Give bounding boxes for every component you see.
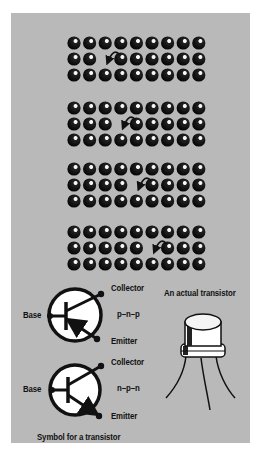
actual-transistor-caption: An actual transistor	[164, 288, 236, 298]
pnp-collector-label: Collector	[111, 283, 144, 293]
npn-type-label: n–p–n	[117, 383, 140, 393]
npn-collector-label: Collector	[111, 357, 144, 367]
pnp-emitter-label: Emitter	[111, 336, 137, 346]
npn-emitter-label: Emitter	[111, 411, 137, 421]
pnp-type-label: p–n–p	[117, 309, 140, 319]
actual-transistor-illustration	[0, 0, 254, 465]
symbol-caption: Symbol for a transistor	[37, 432, 120, 442]
pnp-base-label: Base	[23, 310, 41, 320]
npn-base-label: Base	[23, 384, 41, 394]
